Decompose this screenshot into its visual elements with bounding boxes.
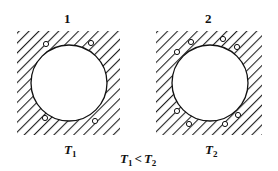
diagram-canvas: [0, 0, 278, 171]
pore-icon: [235, 112, 240, 117]
pore-icon: [188, 39, 193, 44]
left-symbol: T: [120, 151, 128, 166]
temperature-symbol: T: [64, 142, 72, 157]
temperature-comparison: T1<T2: [120, 152, 156, 168]
panel-2-grain: [172, 45, 248, 121]
temperature-symbol: T: [205, 142, 213, 157]
panel-2-label: 2: [205, 12, 212, 25]
pore-icon: [174, 108, 179, 113]
less-than-operator: <: [134, 151, 141, 166]
pore-icon: [234, 44, 239, 49]
panel-1-grain: [31, 45, 107, 121]
panel-1: [17, 31, 120, 135]
pore-icon: [222, 121, 227, 126]
panel-1-temperature: T1: [64, 143, 76, 159]
temperature-subscript: 2: [213, 149, 218, 159]
pore-icon: [42, 115, 47, 120]
panel-2-temperature: T2: [205, 143, 217, 159]
pore-icon: [186, 121, 191, 126]
pore-icon: [174, 49, 179, 54]
pore-icon: [92, 118, 97, 123]
pore-icon: [43, 41, 48, 46]
temperature-subscript: 1: [72, 149, 77, 159]
pore-icon: [220, 36, 225, 41]
pore-icon: [88, 40, 93, 45]
right-subscript: 2: [152, 158, 157, 168]
panel-1-label: 1: [64, 12, 71, 25]
right-symbol: T: [144, 151, 152, 166]
panel-2: [156, 31, 262, 135]
left-subscript: 1: [128, 158, 133, 168]
